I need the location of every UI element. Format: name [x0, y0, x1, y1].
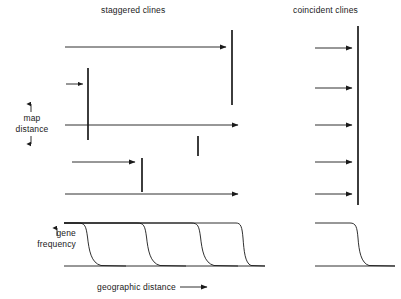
frequency-curve-4	[64, 223, 265, 266]
coincident-frequency-curve	[315, 223, 395, 266]
gene-frequency-label-line1: gene	[14, 228, 76, 239]
geographic-distance-axis-label: geographic distance	[97, 282, 176, 292]
staggered-cline-bars	[88, 30, 232, 192]
diagram-canvas	[0, 0, 401, 299]
coincident-frequency-curves	[315, 223, 395, 266]
frequency-curve-3	[64, 223, 238, 266]
frequency-curve-2	[64, 223, 186, 266]
gene-frequency-label-line2: frequency	[14, 239, 76, 250]
gene-frequency-axis-label: gene frequency	[14, 228, 76, 250]
staggered-map-arrows	[65, 47, 238, 194]
cline-diagram-figure: staggered clines coincident clines map d…	[0, 0, 401, 299]
coincident-map-arrows	[315, 48, 352, 194]
map-distance-axis-label: map distance	[4, 113, 60, 135]
staggered-frequency-curves	[64, 223, 265, 266]
map-distance-label-line2: distance	[4, 124, 60, 135]
map-distance-label-line1: map	[4, 113, 60, 124]
coincident-panel-title: coincident clines	[293, 5, 358, 15]
staggered-panel-title: staggered clines	[101, 5, 165, 15]
